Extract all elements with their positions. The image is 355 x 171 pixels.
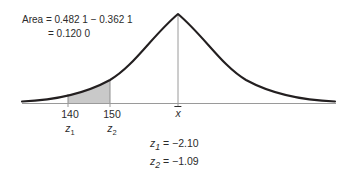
area-annotation: Area = 0.482 1 − 0.362 1 = 0.120 0 [22, 13, 133, 41]
axis-tick-label-140: 140 [61, 108, 79, 120]
area-annotation-line-2: = 0.120 0 [22, 27, 133, 41]
z-value-equations: z1 = −2.10 z2 = −1.09 [150, 136, 199, 171]
area-annotation-line-1: Area = 0.482 1 − 0.362 1 [22, 13, 133, 27]
z2-equation-value: = −1.09 [163, 155, 199, 167]
z2-equation: z2 = −1.09 [150, 154, 199, 171]
z2-subscript: 2 [113, 128, 117, 137]
axis-tick-label-z2: z2 [107, 122, 116, 137]
axis-tick-label-150: 150 [103, 108, 121, 120]
axis-tick-label-z1: z1 [65, 122, 74, 137]
z1-equation-subscript: 1 [155, 142, 160, 152]
z1-subscript: 1 [71, 128, 75, 137]
z1-equation: z1 = −2.10 [150, 136, 199, 154]
mean-xbar-label: x [175, 107, 180, 119]
z1-equation-value: = −2.10 [163, 137, 199, 149]
z2-equation-subscript: 2 [155, 160, 160, 170]
xbar-symbol: x [175, 107, 180, 119]
